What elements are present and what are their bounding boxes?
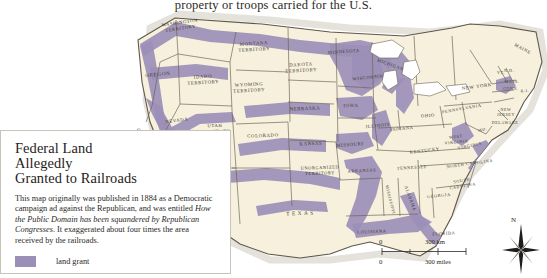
caption-title-line-2: Allegedly: [15, 156, 218, 171]
scale-km-row: 0 300 km: [379, 238, 475, 247]
caption-title-line-1: Federal Land: [15, 141, 218, 156]
compass-north-label: N: [511, 216, 516, 224]
state-label-montana-territory: MONTANATERRITORY: [238, 40, 271, 53]
state-label-ohio: OHIO: [421, 113, 435, 119]
scale-mi-label: 300 miles: [425, 258, 451, 265]
caption-body-part1: This map originally was published in 188…: [15, 194, 212, 214]
state-label-iowa: IOWA: [343, 103, 358, 109]
compass-rose: N: [498, 216, 544, 274]
state-label-new-hampshire: N.H.: [504, 68, 514, 73]
caption-title: Federal Land Allegedly Granted to Railro…: [15, 141, 218, 187]
map-legend: land grant: [15, 256, 218, 267]
caption-title-line-3: Granted to Railroads: [15, 171, 218, 186]
state-label-connecticut: CONN.: [503, 86, 518, 91]
scale-km-label: 300 km: [425, 238, 445, 245]
caption-card: Federal Land Allegedly Granted to Railro…: [0, 130, 231, 274]
legend-swatch-land-grant: [15, 256, 36, 267]
state-label-vermont: VT.: [497, 70, 505, 75]
state-label-wyoming-territory: WYOMINGTERRITORY: [233, 81, 266, 94]
scale-km-zero: 0: [379, 238, 382, 245]
scale-bars: 0 300 km 0 300 miles: [379, 238, 475, 268]
state-label-texas: T E X A S: [286, 210, 314, 217]
scale-mi-zero: 0: [379, 258, 382, 265]
state-label-nebraska: NEBRASKA: [290, 105, 321, 111]
state-label-massachusetts: MASS.: [505, 79, 520, 84]
state-label-rhode-island: R.I.: [520, 88, 529, 94]
state-label-kansas: KANSAS: [299, 141, 322, 147]
scale-bar-graphic: [381, 248, 467, 255]
state-label-florida: FLORIDA: [432, 230, 456, 237]
caption-body: This map originally was published in 188…: [15, 194, 218, 247]
state-label-unorganized-territory: UNORGANIZEDTERRITORY: [301, 164, 340, 176]
compass-star-icon: [498, 216, 544, 274]
state-label-dakota-territory: DAKOTATERRITORY: [285, 61, 318, 74]
state-label-delaware: DELAWARE: [492, 120, 518, 125]
scale-mi-row: 0 300 miles: [379, 258, 475, 267]
legend-label-land-grant: land grant: [56, 257, 89, 266]
